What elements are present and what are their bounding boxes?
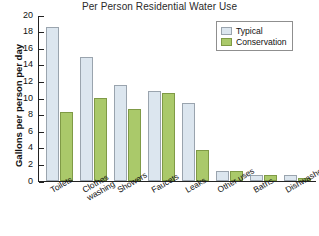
bar-typical[interactable] — [114, 85, 127, 181]
y-axis-tick-label: 2 — [28, 159, 33, 169]
legend-item[interactable]: Typical — [221, 25, 287, 36]
y-axis-tick-label: 10 — [23, 93, 33, 103]
bar-conservation[interactable] — [162, 93, 175, 181]
bar-typical[interactable] — [46, 27, 59, 181]
legend-label: Typical — [236, 26, 263, 36]
water-use-bar-chart: Per Person Residential Water Use Gallons… — [0, 0, 319, 236]
y-axis-tick-label: 4 — [28, 142, 33, 152]
y-axis-tick-label: 8 — [28, 109, 33, 119]
legend-swatch-conservation — [221, 38, 232, 46]
y-axis-tick-label: 18 — [23, 26, 33, 36]
bar-group — [46, 16, 73, 181]
legend-item[interactable]: Conservation — [221, 36, 287, 47]
bar-conservation[interactable] — [128, 109, 141, 181]
bar-group — [114, 16, 141, 181]
y-axis-tick-label: 12 — [23, 76, 33, 86]
bar-group — [182, 16, 209, 181]
bar-conservation[interactable] — [94, 98, 107, 181]
legend-label: Conservation — [236, 37, 287, 47]
y-axis-tick-label: 16 — [23, 43, 33, 53]
bar-group — [80, 16, 107, 181]
x-axis-labels: ToiletsClothes washingShowersFaucetsLeak… — [38, 184, 316, 236]
bar-typical[interactable] — [182, 103, 195, 181]
y-axis-tick-label: 6 — [28, 126, 33, 136]
chart-legend: TypicalConservation — [216, 21, 293, 51]
bar-conservation[interactable] — [60, 112, 73, 181]
y-axis-tick-label: 20 — [23, 10, 33, 20]
bar-typical[interactable] — [80, 57, 93, 182]
y-axis-tick-label: 0 — [28, 176, 33, 186]
chart-title: Per Person Residential Water Use — [0, 1, 319, 12]
bar-typical[interactable] — [148, 91, 161, 181]
y-axis-tick-label: 14 — [23, 59, 33, 69]
legend-swatch-typical — [221, 27, 232, 35]
y-axis-tick-mark — [39, 182, 44, 183]
y-axis-title: Gallons per person per day — [13, 26, 24, 186]
bar-group — [148, 16, 175, 181]
